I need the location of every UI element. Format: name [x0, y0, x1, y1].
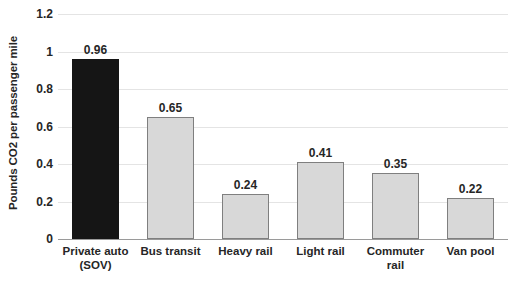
bar [447, 198, 494, 239]
plot-area: 0.96 0.65 0.24 0.41 0.35 0.22 [58, 14, 508, 239]
x-category-line: Private auto [59, 244, 132, 258]
bar [222, 194, 269, 239]
x-axis-category-labels: Private auto (SOV) Bus transit Heavy rai… [58, 244, 508, 292]
bar-value-label: 0.22 [459, 183, 482, 195]
bar [372, 173, 419, 239]
bar-value-label: 0.35 [384, 158, 407, 170]
x-category-line: Light rail [284, 244, 357, 258]
y-axis-title: Pounds CO2 per passenger mile [0, 0, 26, 245]
x-category-label: Private auto (SOV) [58, 244, 133, 292]
bar [72, 59, 119, 239]
bar-value-label: 0.41 [309, 147, 332, 159]
y-axis-title-text: Pounds CO2 per passenger mile [7, 35, 19, 209]
x-category-label: Bus transit [133, 244, 208, 292]
x-category-line: Van pool [434, 244, 507, 258]
bar-value-label: 0.24 [234, 179, 257, 191]
bar-slot: 0.65 [133, 14, 208, 239]
x-category-line: (SOV) [59, 258, 132, 272]
x-category-line: Commuter [359, 244, 432, 258]
bar [297, 162, 344, 239]
x-category-label: Heavy rail [208, 244, 283, 292]
y-tick-label: 0.2 [36, 196, 53, 208]
x-category-label: Van pool [433, 244, 508, 292]
bar-slot: 0.41 [283, 14, 358, 239]
bars-layer: 0.96 0.65 0.24 0.41 0.35 0.22 [58, 14, 508, 239]
y-tick-label: 0 [46, 233, 53, 245]
y-tick-label: 0.8 [36, 83, 53, 95]
x-category-line: Heavy rail [209, 244, 282, 258]
x-category-line: Bus transit [134, 244, 207, 258]
bar-slot: 0.35 [358, 14, 433, 239]
bar-value-label: 0.96 [84, 44, 107, 56]
x-category-label: Light rail [283, 244, 358, 292]
x-axis-baseline [58, 239, 508, 240]
x-category-label: Commuter rail [358, 244, 433, 292]
bar-slot: 0.24 [208, 14, 283, 239]
bar-value-label: 0.65 [159, 102, 182, 114]
x-category-line: rail [359, 258, 432, 272]
y-tick-label: 1 [46, 46, 53, 58]
bar-slot: 0.22 [433, 14, 508, 239]
y-tick-label: 0.6 [36, 121, 53, 133]
y-tick-label: 1.2 [36, 8, 53, 20]
bar-slot: 0.96 [58, 14, 133, 239]
bar [147, 117, 194, 239]
y-tick-label: 0.4 [36, 158, 53, 170]
y-axis-tick-labels: 1.2 1 0.8 0.6 0.4 0.2 0 [26, 0, 56, 245]
bar-chart-figure: Pounds CO2 per passenger mile 1.2 1 0.8 … [0, 0, 518, 295]
